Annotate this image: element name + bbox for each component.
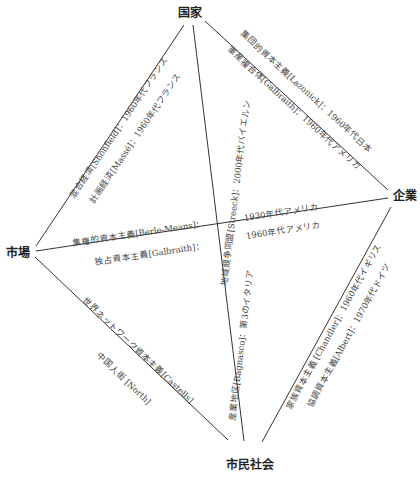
diagram-lines xyxy=(0,0,420,479)
node-state: 国家 xyxy=(178,3,202,20)
node-civil-society: 市民社会 xyxy=(226,455,274,472)
node-market: 市場 xyxy=(6,243,30,260)
capitalism-typology-diagram: 国家 市場 企業 市民社会 混合経済[Shonfield]：1960年代フランス… xyxy=(0,0,420,479)
node-firm: 企業 xyxy=(393,186,417,203)
